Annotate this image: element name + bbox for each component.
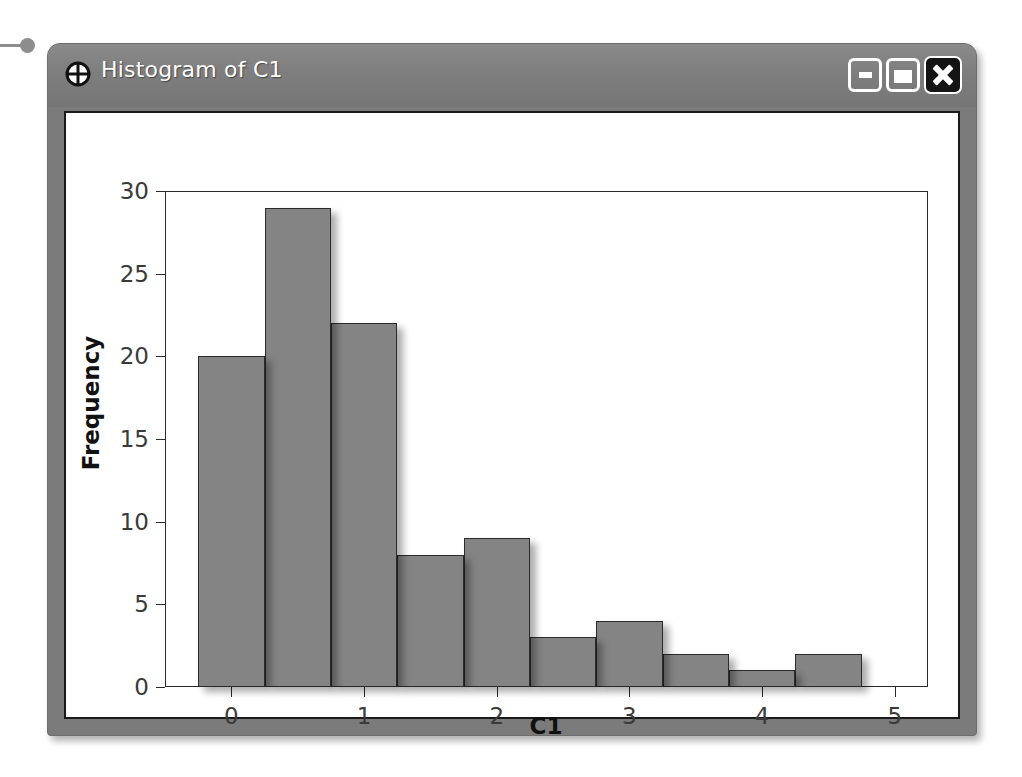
window-controls xyxy=(848,56,962,94)
histogram-bar xyxy=(464,538,530,687)
histogram-bar xyxy=(397,555,463,687)
x-axis-title: C1 xyxy=(530,713,563,739)
y-axis-tick xyxy=(156,191,165,192)
histogram-bars xyxy=(165,191,928,687)
y-axis-title: Frequency xyxy=(78,336,104,471)
y-axis-tick-label: 0 xyxy=(103,674,149,700)
x-axis-tick xyxy=(364,687,365,697)
x-axis-tick-label: 2 xyxy=(489,703,504,729)
x-axis-tick-label: 5 xyxy=(887,703,902,729)
y-axis-tick xyxy=(156,522,165,523)
y-axis-tick xyxy=(156,356,165,357)
histogram-plot: 051015202530 012345 Frequency C1 xyxy=(66,113,958,717)
minimize-button[interactable] xyxy=(848,58,882,92)
maximize-icon xyxy=(894,70,912,83)
histogram-bar xyxy=(729,670,795,687)
x-axis-tick xyxy=(762,687,763,697)
x-axis-tick-label: 1 xyxy=(357,703,372,729)
x-axis-tick xyxy=(497,687,498,697)
x-axis-tick-label: 0 xyxy=(224,703,239,729)
histogram-bar xyxy=(331,323,397,687)
y-axis-tick-label: 10 xyxy=(103,509,149,535)
y-axis-tick-label: 15 xyxy=(103,426,149,452)
x-axis-tick-label: 4 xyxy=(755,703,770,729)
window-titlebar[interactable]: Histogram of C1 xyxy=(48,44,976,107)
crosshair-circle-icon xyxy=(65,61,91,87)
histogram-bar xyxy=(663,654,729,687)
y-axis-tick xyxy=(156,687,165,688)
maximize-button[interactable] xyxy=(886,58,920,92)
y-axis-tick-label: 5 xyxy=(103,591,149,617)
x-axis-tick xyxy=(895,687,896,697)
x-axis-tick xyxy=(629,687,630,697)
histogram-bar xyxy=(596,621,662,687)
x-axis-tick-label: 3 xyxy=(622,703,637,729)
histogram-bar xyxy=(265,208,331,687)
y-axis-tick xyxy=(156,604,165,605)
y-axis-tick-label: 30 xyxy=(103,178,149,204)
close-button[interactable] xyxy=(924,56,962,94)
histogram-bar xyxy=(198,356,264,687)
plot-client-area: 051015202530 012345 Frequency C1 xyxy=(64,111,960,719)
histogram-bar xyxy=(530,637,596,687)
histogram-window: Histogram of C1 051015202530 012345 Freq… xyxy=(47,43,977,736)
y-axis-tick-label: 20 xyxy=(103,343,149,369)
y-axis-tick-label: 25 xyxy=(103,261,149,287)
y-axis-tick xyxy=(156,274,165,275)
x-axis-tick xyxy=(231,687,232,697)
histogram-bar xyxy=(795,654,861,687)
minimize-icon xyxy=(859,72,872,78)
callout-dot xyxy=(20,38,35,53)
window-title: Histogram of C1 xyxy=(101,57,283,82)
y-axis-tick xyxy=(156,439,165,440)
